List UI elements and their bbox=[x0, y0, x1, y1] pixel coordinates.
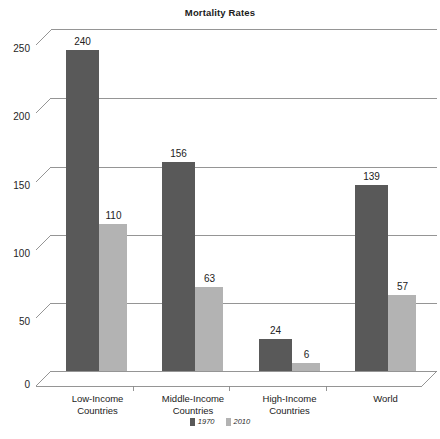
bar-value-middle-income-1970: 156 bbox=[158, 149, 199, 159]
legend-item-1970[interactable]: 1970 bbox=[190, 418, 215, 426]
x-axis-label-high-income: High-Income Countries bbox=[237, 393, 342, 416]
chart-legend: 1970 2010 bbox=[0, 418, 440, 426]
x-axis-label-low-income: Low-Income Countries bbox=[45, 393, 150, 416]
legend-swatch-1970-icon bbox=[190, 418, 195, 426]
legend-swatch-2010-icon bbox=[226, 418, 231, 426]
x-axis-label-high-income-line2: Countries bbox=[237, 405, 342, 417]
legend-label-1970: 1970 bbox=[198, 418, 215, 426]
x-axis-label-middle-income-line2: Countries bbox=[138, 405, 248, 417]
bar-value-middle-income-2010: 63 bbox=[189, 274, 230, 284]
bar-value-low-income-1970: 240 bbox=[62, 37, 103, 47]
bar-world-2010[interactable] bbox=[388, 295, 416, 371]
x-axis-label-high-income-line1: High-Income bbox=[237, 393, 342, 405]
bar-middle-income-2010[interactable] bbox=[195, 287, 223, 371]
legend-label-2010: 2010 bbox=[234, 418, 251, 426]
bar-value-world-2010: 57 bbox=[382, 282, 423, 292]
bar-value-high-income-2010: 6 bbox=[286, 350, 327, 360]
bar-world-1970[interactable] bbox=[355, 185, 388, 371]
x-axis-label-middle-income-line1: Middle-Income bbox=[138, 393, 248, 405]
mortality-rates-bar-chart: Mortality Rates bbox=[0, 0, 440, 439]
x-axis-label-low-income-line1: Low-Income bbox=[45, 393, 150, 405]
legend-item-2010[interactable]: 2010 bbox=[226, 418, 251, 426]
bars-layer: 240 110 156 63 24 6 139 57 bbox=[0, 0, 440, 439]
x-axis-label-middle-income: Middle-Income Countries bbox=[138, 393, 248, 416]
bar-low-income-2010[interactable] bbox=[99, 224, 127, 371]
x-axis-label-low-income-line2: Countries bbox=[45, 405, 150, 417]
bar-value-high-income-1970: 24 bbox=[255, 326, 296, 336]
x-axis-label-world-line1: World bbox=[338, 393, 433, 405]
bar-value-low-income-2010: 110 bbox=[93, 211, 134, 221]
x-axis-label-world: World bbox=[338, 393, 433, 405]
bar-high-income-2010[interactable] bbox=[292, 363, 320, 371]
bar-middle-income-1970[interactable] bbox=[162, 162, 195, 371]
bar-value-world-1970: 139 bbox=[351, 172, 392, 182]
